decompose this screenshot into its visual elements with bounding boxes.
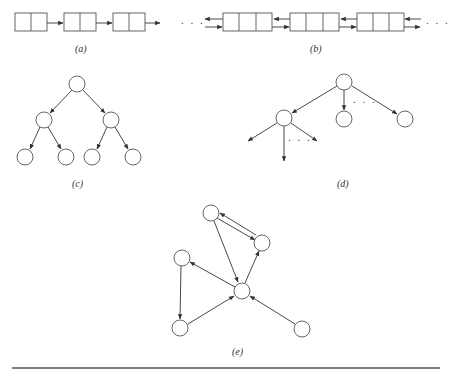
tree-node-leaf: [125, 149, 141, 165]
panel-a-linked-list: (a): [15, 13, 160, 55]
data-structures-figure: (a) . . . . . . (b): [0, 0, 452, 376]
list-node: [223, 13, 272, 31]
graph-edge-arrow: [217, 218, 255, 240]
graph-edge-arrow: [190, 262, 235, 287]
tree-edge-arrow: [248, 123, 277, 141]
graph-edge-arrow: [220, 213, 256, 235]
panel-c-binary-tree: (c): [17, 76, 141, 190]
tree-node: [336, 111, 352, 127]
panel-label-b: (b): [310, 43, 322, 55]
panel-d-general-tree: . . . . . . (d): [248, 74, 413, 190]
tree-edge-arrow: [292, 86, 337, 113]
graph-edge-arrow: [188, 296, 234, 324]
tree-node: [103, 112, 119, 128]
tree-node-root: [69, 76, 85, 92]
list-node: [113, 13, 145, 31]
tree-edge-arrow: [50, 90, 72, 113]
panel-label-e: (e): [232, 346, 244, 358]
graph-node: [172, 320, 188, 336]
tree-node-leaf: [84, 149, 100, 165]
panel-label-c: (c): [72, 178, 84, 190]
graph-edge-arrow: [214, 221, 238, 282]
graph-edge-arrow: [245, 251, 259, 283]
tree-edge-arrow: [83, 90, 105, 113]
tree-node-leaf: [58, 149, 74, 165]
graph-node: [174, 250, 190, 266]
panel-label-a: (a): [75, 43, 87, 55]
tree-node: [276, 110, 292, 126]
list-node: [64, 13, 96, 31]
tree-node: [36, 112, 52, 128]
list-node: [15, 13, 47, 31]
list-node: [357, 13, 404, 31]
graph-node: [254, 235, 270, 251]
panel-e-directed-graph: (e): [172, 205, 310, 358]
ellipsis-right: . . .: [426, 15, 450, 26]
list-node: [290, 13, 339, 31]
tree-edge-arrow: [97, 127, 107, 149]
tree-edge-arrow: [30, 127, 40, 149]
tree-edge-arrow: [48, 127, 61, 149]
tree-edge-arrow: [115, 127, 128, 149]
graph-edge-arrow: [180, 266, 181, 319]
tree-node-root: [336, 74, 352, 90]
tree-node-leaf: [17, 149, 33, 165]
ellipsis-child-children: . . .: [288, 132, 312, 143]
ellipsis-root-children: . . .: [353, 94, 377, 105]
panel-b-doubly-linked-list: . . . . . . (b): [181, 13, 450, 55]
graph-node-hub: [234, 283, 250, 299]
panel-label-d: (d): [337, 178, 349, 190]
graph-node: [203, 205, 219, 221]
graph-edge-arrow: [250, 296, 295, 324]
ellipsis-left: . . .: [181, 15, 205, 26]
graph-node: [294, 321, 310, 337]
tree-node: [397, 111, 413, 127]
